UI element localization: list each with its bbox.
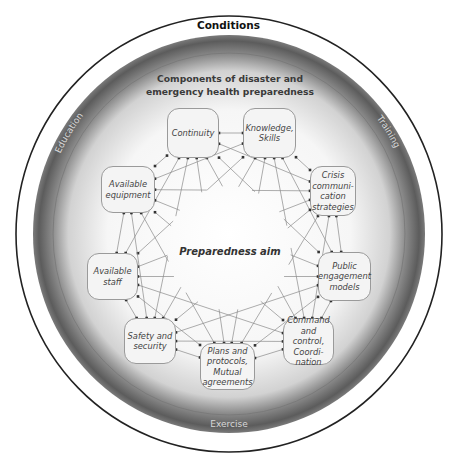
node-label-line: strategies bbox=[312, 202, 354, 213]
node-label-line: Mutual bbox=[203, 367, 253, 378]
node-label-line: Command bbox=[286, 315, 331, 326]
concentric-rings: Education Training Exercise bbox=[0, 0, 457, 464]
node-label-line: Continuity bbox=[172, 128, 215, 139]
node-command: Commandand control,Coordi-nation bbox=[283, 318, 334, 365]
node-label-line: communi- bbox=[312, 181, 354, 192]
node-label-line: Coordi- bbox=[286, 347, 331, 358]
node-staff: Availablestaff bbox=[87, 253, 138, 300]
arrowhead-icon bbox=[317, 296, 320, 299]
arrowhead-icon bbox=[254, 344, 257, 347]
arrowhead-icon bbox=[137, 295, 140, 298]
node-safety: Safety andsecurity bbox=[124, 318, 176, 364]
node-label-line: agreements bbox=[203, 377, 253, 388]
node-label-line: and control, bbox=[286, 326, 331, 347]
node-label-line: Plans and bbox=[203, 346, 253, 357]
node-plans: Plans andprotocols,Mutualagreements bbox=[200, 343, 255, 390]
preparedness-aim-label: Preparedness aim bbox=[160, 246, 300, 257]
conditions-title: Conditions bbox=[0, 19, 457, 31]
node-label-line: Available bbox=[93, 266, 131, 277]
node-label-line: models bbox=[318, 282, 371, 293]
node-label-line: Available bbox=[106, 179, 151, 190]
node-label-line: cation bbox=[312, 191, 354, 202]
ring-label-exercise: Exercise bbox=[210, 419, 248, 429]
arrowhead-icon bbox=[199, 344, 202, 347]
node-continuity: Continuity bbox=[167, 108, 219, 158]
node-crisis: Crisiscommuni-cationstrategies bbox=[310, 166, 356, 216]
node-label-line: staff bbox=[93, 277, 131, 288]
node-label-line: equipment bbox=[106, 190, 151, 201]
diagram-stage: Education Training Exercise Conditions C… bbox=[0, 0, 457, 464]
node-label-line: protocols, bbox=[203, 356, 253, 367]
node-label-line: Safety and bbox=[128, 331, 173, 342]
arrowhead-icon bbox=[154, 211, 157, 214]
arrowhead-icon bbox=[166, 154, 169, 157]
components-heading-line2: emergency health preparedness bbox=[100, 85, 360, 98]
arrowhead-icon bbox=[295, 156, 298, 159]
components-heading: Components of disaster and emergency hea… bbox=[100, 72, 360, 98]
arrowhead-icon bbox=[175, 318, 178, 321]
node-label-line: nation bbox=[286, 357, 331, 368]
node-label-line: Crisis bbox=[312, 170, 354, 181]
arrowhead-icon bbox=[218, 156, 221, 159]
node-knowledge: Knowledge,Skills bbox=[243, 108, 296, 158]
node-label-line: security bbox=[128, 341, 173, 352]
node-label-line: Public bbox=[318, 261, 371, 272]
node-public: Publicengagementmodels bbox=[318, 252, 371, 301]
components-heading-line1: Components of disaster and bbox=[100, 72, 360, 85]
arrowhead-icon bbox=[154, 165, 157, 168]
arrowhead-icon bbox=[242, 156, 245, 159]
arrowhead-icon bbox=[282, 319, 285, 322]
arrowhead-icon bbox=[317, 251, 320, 254]
node-equipment: Availableequipment bbox=[101, 166, 155, 213]
node-label-line: Skills bbox=[245, 133, 293, 144]
node-label-line: Knowledge, bbox=[245, 123, 293, 134]
node-label-line: engagement bbox=[318, 271, 371, 282]
